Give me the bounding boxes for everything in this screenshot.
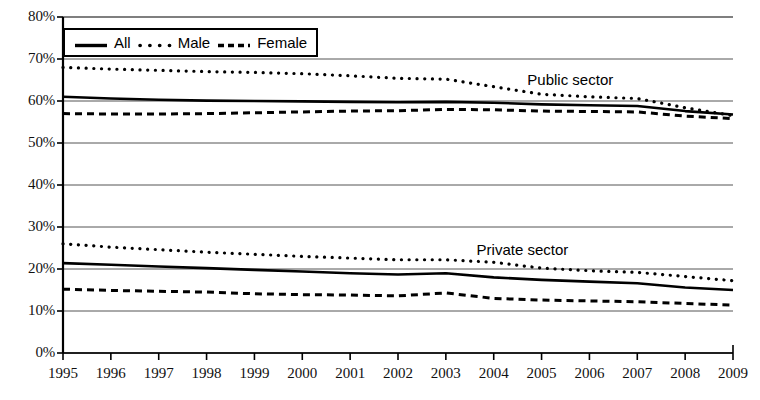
series-public-male xyxy=(63,67,733,115)
legend-item-female: Female xyxy=(217,35,307,50)
series-private-all xyxy=(63,263,733,290)
y-axis-tick-label: 80% xyxy=(9,8,55,25)
legend-label-male: Male xyxy=(178,35,211,50)
legend-label-female: Female xyxy=(257,35,307,50)
y-axis-tick-label: 30% xyxy=(9,218,55,235)
x-axis-tick-label: 1996 xyxy=(85,365,137,382)
y-axis-tick-label: 20% xyxy=(9,260,55,277)
x-axis-tick-label: 1998 xyxy=(181,365,233,382)
x-axis-tick-label: 2008 xyxy=(659,365,711,382)
x-axis-tick-label: 1997 xyxy=(133,365,185,382)
legend-item-all: All xyxy=(74,35,131,50)
y-axis-tick-label: 60% xyxy=(9,92,55,109)
y-axis-tick-label: 70% xyxy=(9,50,55,67)
x-axis-tick-label: 2002 xyxy=(372,365,424,382)
series-public-female xyxy=(63,109,733,118)
dashed-line-swatch xyxy=(217,37,251,48)
x-axis-tick-label: 2003 xyxy=(420,365,472,382)
annotation-public-sector: Public sector xyxy=(527,71,613,88)
dotted-line-swatch xyxy=(138,37,172,48)
x-axis-ticks xyxy=(63,353,733,360)
y-axis-tick-label: 0% xyxy=(9,344,55,361)
legend-item-male: Male xyxy=(138,35,211,50)
x-axis-tick-label: 2009 xyxy=(707,365,759,382)
line-chart: 80%70%60%50%40%30%20%10%0% 1995199619971… xyxy=(0,0,760,400)
x-axis-tick-label: 1999 xyxy=(228,365,280,382)
x-axis-tick-label: 1995 xyxy=(37,365,89,382)
x-axis-tick-label: 2007 xyxy=(611,365,663,382)
chart-plot-area xyxy=(0,0,760,400)
x-axis-tick-label: 2005 xyxy=(516,365,568,382)
y-axis-tick-label: 10% xyxy=(9,302,55,319)
solid-line-swatch xyxy=(74,37,108,48)
chart-legend: All Male Female xyxy=(63,28,318,57)
x-axis-tick-label: 2000 xyxy=(276,365,328,382)
y-axis-tick-label: 50% xyxy=(9,134,55,151)
x-axis-tick-label: 2004 xyxy=(468,365,520,382)
y-axis-tick-label: 40% xyxy=(9,176,55,193)
legend-label-all: All xyxy=(114,35,131,50)
x-axis-tick-label: 2006 xyxy=(563,365,615,382)
x-axis-tick-label: 2001 xyxy=(324,365,376,382)
annotation-private-sector: Private sector xyxy=(477,241,569,258)
series-private-female xyxy=(63,289,733,305)
